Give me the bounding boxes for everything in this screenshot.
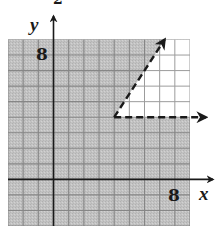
x-axis-label: x — [198, 183, 209, 204]
y-tick-label-8: 8 — [36, 44, 48, 64]
graph-canvas: 2 y x 8 8 — [0, 0, 221, 238]
y-axis-label: y — [28, 14, 39, 35]
cropped-label-fragment: 2 — [53, 0, 63, 7]
x-tick-label-8: 8 — [168, 185, 180, 205]
